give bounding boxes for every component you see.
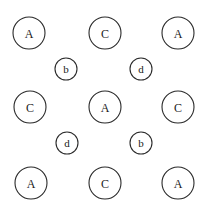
node-label: A: [25, 27, 34, 41]
node-small-2: d: [56, 132, 78, 154]
node-label: d: [64, 137, 70, 149]
node-label: C: [174, 101, 182, 115]
node-small-3: b: [130, 132, 152, 154]
node-label: b: [138, 137, 144, 149]
node-label: A: [27, 177, 36, 191]
node-label: d: [138, 63, 144, 75]
node-large-1: C: [89, 17, 121, 49]
node-small-0: b: [55, 58, 77, 80]
node-large-5: C: [162, 91, 194, 123]
node-large-8: A: [162, 167, 194, 199]
node-label: b: [63, 63, 69, 75]
node-large-0: A: [13, 17, 45, 49]
node-label: C: [101, 27, 109, 41]
node-label: A: [101, 101, 110, 115]
node-large-7: C: [89, 167, 121, 199]
node-label: C: [26, 101, 34, 115]
lattice-diagram: A C A C A C A C A b d d: [0, 0, 210, 210]
node-large-6: A: [15, 167, 47, 199]
node-small-1: d: [130, 58, 152, 80]
node-label: A: [174, 177, 183, 191]
node-large-2: A: [162, 17, 194, 49]
node-large-3: C: [14, 91, 46, 123]
node-label: A: [174, 27, 183, 41]
node-label: C: [101, 177, 109, 191]
node-large-4: A: [89, 91, 121, 123]
